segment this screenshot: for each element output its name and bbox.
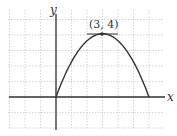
vertex-point	[100, 32, 104, 36]
grid	[8, 10, 164, 128]
x-axis-label: x	[167, 90, 174, 104]
vertex-label: (3, 4)	[89, 18, 119, 31]
y-axis-label: y	[49, 3, 57, 17]
chart: x y (3, 4)	[0, 0, 177, 136]
